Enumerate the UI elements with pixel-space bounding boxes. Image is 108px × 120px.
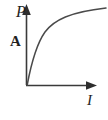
point-marker-label-a: A [10, 34, 21, 49]
power-current-curve [27, 8, 106, 85]
x-axis-arrowhead-icon [86, 81, 97, 90]
y-axis-label: P [16, 4, 26, 20]
x-axis-label: I [87, 93, 92, 108]
graph-figure: P A I [0, 0, 108, 120]
